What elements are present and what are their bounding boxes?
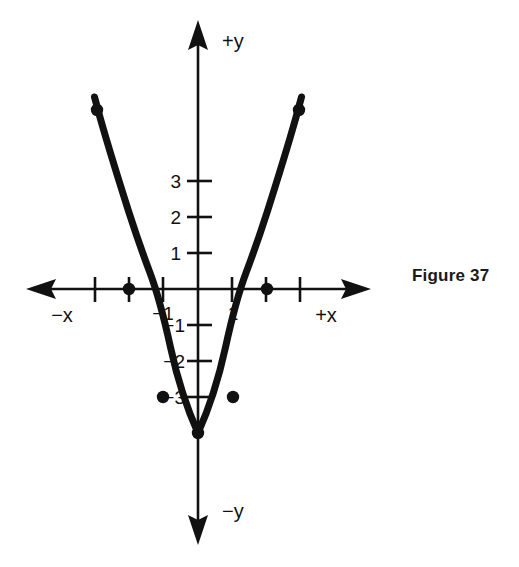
axis-label-negative-y: −y [222,500,244,522]
y-tick-label-3: 3 [170,171,181,192]
data-point-neg2-0 [123,283,135,295]
axis-label-negative-x: −x [51,304,73,326]
axis-label-positive-y: +y [222,30,244,52]
data-point-3-5 [293,104,305,116]
axes-group [26,20,371,545]
figure-page: 3 2 1 −1 −2 −3 −1 1 +y −y +x −x [0,0,519,567]
y-tick-label-2: 2 [170,207,181,228]
data-point-0-neg4 [192,427,204,439]
data-point-neg1-neg3 [157,391,169,403]
graph-figure: 3 2 1 −1 −2 −3 −1 1 +y −y +x −x [0,0,400,567]
figure-caption: Figure 37 [412,266,489,286]
data-point-2-0 [261,283,273,295]
coordinate-plane-svg: 3 2 1 −1 −2 −3 −1 1 +y −y +x −x [0,0,400,567]
y-tick-label-1: 1 [170,243,181,264]
axis-label-positive-x: +x [315,304,337,326]
data-point-neg3-5 [91,104,103,116]
data-point-1-neg3 [227,391,239,403]
